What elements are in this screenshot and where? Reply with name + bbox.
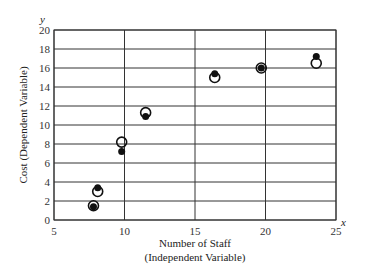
filled-dot-marker <box>313 53 320 60</box>
filled-dot-marker <box>258 65 265 72</box>
y-tick-label: 8 <box>45 138 51 150</box>
y-tick-label: 0 <box>45 214 51 226</box>
scatter-chart: 02468101214161820 510152025 y x Number o… <box>0 0 366 278</box>
filled-dot-marker <box>142 113 149 120</box>
y-tick-labels: 02468101214161820 <box>39 24 51 226</box>
filled-dot-marker <box>211 70 218 77</box>
x-axis-title: Number of Staff <box>159 237 231 249</box>
x-axis-variable: x <box>340 216 346 228</box>
y-tick-label: 2 <box>45 195 51 207</box>
y-tick-label: 10 <box>39 119 51 131</box>
series-open-circles <box>88 58 321 211</box>
y-tick-label: 4 <box>45 176 51 188</box>
gridlines <box>54 30 336 220</box>
y-tick-label: 18 <box>39 43 51 55</box>
filled-dot-marker <box>118 148 125 155</box>
y-tick-label: 20 <box>39 24 51 36</box>
y-tick-label: 16 <box>39 62 51 74</box>
filled-dot-marker <box>94 184 101 191</box>
x-tick-label: 15 <box>190 225 202 237</box>
x-axis-subtitle: (Independent Variable) <box>145 251 246 264</box>
filled-dot-marker <box>90 203 97 210</box>
x-tick-labels: 510152025 <box>51 225 342 237</box>
y-tick-label: 12 <box>39 100 50 112</box>
x-tick-label: 20 <box>260 225 272 237</box>
open-circle-marker <box>117 137 127 147</box>
x-tick-label: 5 <box>51 225 57 237</box>
y-axis-variable: y <box>39 13 45 25</box>
y-tick-label: 14 <box>39 81 51 93</box>
y-axis-title: Cost (Dependent Variable) <box>17 66 30 183</box>
x-tick-label: 10 <box>119 225 131 237</box>
y-tick-label: 6 <box>45 157 51 169</box>
